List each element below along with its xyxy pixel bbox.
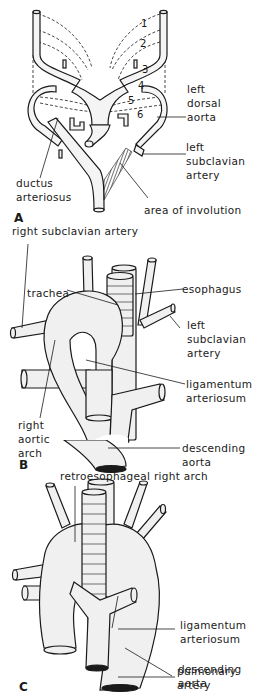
arch-number-5: 5 — [128, 95, 134, 106]
label-line: ductus — [16, 176, 72, 190]
arch-number-1: 1 — [141, 18, 147, 29]
label-left-subclavian-artery-a: left subclavian artery — [186, 140, 245, 182]
label-line: arteriosum — [186, 391, 252, 405]
label-line: ligamentum — [180, 618, 246, 632]
label-descending-aorta-b: descending aorta — [182, 441, 245, 469]
panel-c-bottom: descending aorta C — [0, 660, 257, 698]
panel-b: right subclavian artery trachea esophagu… — [0, 220, 257, 460]
label-line: descending — [178, 662, 241, 676]
arch-number-3: 3 — [142, 64, 148, 75]
panel-letter-c: C — [19, 680, 28, 694]
label-ductus-arteriosus: ductus arteriosus — [16, 176, 72, 204]
label-line: subclavian — [186, 154, 245, 168]
arch-number-2: 2 — [140, 38, 146, 49]
label-retroesophageal-right-arch: retroesophageal right arch — [60, 469, 208, 483]
label-line: artery — [186, 168, 245, 182]
label-line: left — [187, 82, 221, 96]
label-right-subclavian-artery: right subclavian artery — [12, 224, 138, 238]
label-line: left — [186, 140, 245, 154]
panel-letter-b: B — [19, 458, 28, 472]
label-line: artery — [187, 346, 246, 360]
label-ligamentum-arteriosum-c: ligamentum arteriosum — [180, 618, 246, 646]
label-line: left — [187, 318, 246, 332]
label-line: dorsal — [187, 96, 221, 110]
arch-number-6: 6 — [137, 109, 143, 120]
label-left-subclavian-artery-b: left subclavian artery — [187, 318, 246, 360]
label-line: aorta — [178, 676, 241, 690]
label-esophagus: esophagus — [182, 282, 242, 296]
label-area-of-involution: area of involution — [144, 203, 242, 217]
label-line: aorta — [187, 110, 221, 124]
label-descending-aorta-c: descending aorta — [178, 662, 241, 690]
label-line: subclavian — [187, 332, 246, 346]
label-line: arteriosum — [180, 632, 246, 646]
label-line: right — [18, 418, 50, 432]
label-left-dorsal-aorta: left dorsal aorta — [187, 82, 221, 124]
label-line: arteriosus — [16, 190, 72, 204]
panel-a: 1 2 3 4 5 6 left dorsal aorta left subcl… — [0, 0, 257, 220]
arch-number-4: 4 — [138, 80, 144, 91]
label-line: descending — [182, 441, 245, 455]
label-ligamentum-arteriosum-b: ligamentum arteriosum — [186, 377, 252, 405]
label-trachea: trachea — [27, 286, 69, 300]
label-line: ligamentum — [186, 377, 252, 391]
label-line: aorta — [182, 455, 245, 469]
